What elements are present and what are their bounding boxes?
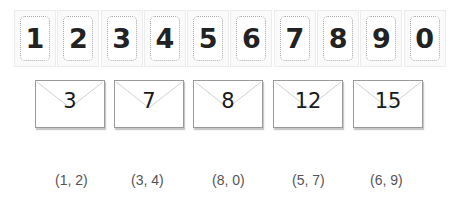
number-card-8: 8 bbox=[317, 10, 359, 67]
number-card-3: 3 bbox=[101, 10, 143, 67]
envelope-3: 8 bbox=[193, 80, 263, 128]
number-card-inner: 1 bbox=[20, 16, 50, 61]
number-card-inner: 3 bbox=[107, 16, 137, 61]
number-card-1: 1 bbox=[14, 10, 56, 67]
number-card-digit: 0 bbox=[415, 25, 434, 52]
number-card-digit: 6 bbox=[242, 25, 261, 52]
envelope-number: 8 bbox=[194, 91, 262, 112]
number-card-7: 7 bbox=[274, 10, 316, 67]
pair-label-3: (8, 0) bbox=[212, 172, 245, 188]
envelope-number: 7 bbox=[115, 91, 183, 112]
number-cards-row: 1 2 3 4 5 6 7 8 9 0 bbox=[14, 10, 447, 67]
envelope-number: 3 bbox=[36, 91, 104, 112]
envelope-1: 3 bbox=[35, 80, 105, 128]
envelope-number: 15 bbox=[354, 91, 422, 112]
number-card-digit: 8 bbox=[329, 25, 348, 52]
number-card-inner: 8 bbox=[323, 16, 353, 61]
number-card-digit: 4 bbox=[155, 25, 174, 52]
number-card-9: 9 bbox=[360, 10, 402, 67]
envelopes-row: 3 7 8 12 15 bbox=[35, 80, 435, 130]
pair-label-2: (3, 4) bbox=[131, 172, 164, 188]
pairs-row: (1, 2) (3, 4) (8, 0) (5, 7) (6, 9) bbox=[0, 172, 460, 192]
number-card-digit: 9 bbox=[372, 25, 391, 52]
number-card-digit: 5 bbox=[199, 25, 218, 52]
number-card-inner: 7 bbox=[280, 16, 310, 61]
envelope-4: 12 bbox=[273, 80, 343, 128]
pair-label-4: (5, 7) bbox=[292, 172, 325, 188]
envelope-number: 12 bbox=[274, 91, 342, 112]
pair-label-5: (6, 9) bbox=[370, 172, 403, 188]
number-card-2: 2 bbox=[57, 10, 99, 67]
number-card-digit: 1 bbox=[26, 25, 45, 52]
number-card-digit: 2 bbox=[69, 25, 88, 52]
number-card-inner: 5 bbox=[193, 16, 223, 61]
number-card-inner: 0 bbox=[410, 16, 440, 61]
number-card-4: 4 bbox=[144, 10, 186, 67]
number-card-digit: 3 bbox=[112, 25, 131, 52]
number-card-inner: 4 bbox=[150, 16, 180, 61]
number-card-inner: 6 bbox=[236, 16, 266, 61]
number-card-inner: 2 bbox=[63, 16, 93, 61]
number-card-6: 6 bbox=[230, 10, 272, 67]
pair-label-1: (1, 2) bbox=[55, 172, 88, 188]
envelope-5: 15 bbox=[353, 80, 423, 128]
envelope-2: 7 bbox=[114, 80, 184, 128]
number-card-digit: 7 bbox=[285, 25, 304, 52]
number-card-5: 5 bbox=[187, 10, 229, 67]
number-card-inner: 9 bbox=[366, 16, 396, 61]
number-card-10: 0 bbox=[404, 10, 446, 67]
